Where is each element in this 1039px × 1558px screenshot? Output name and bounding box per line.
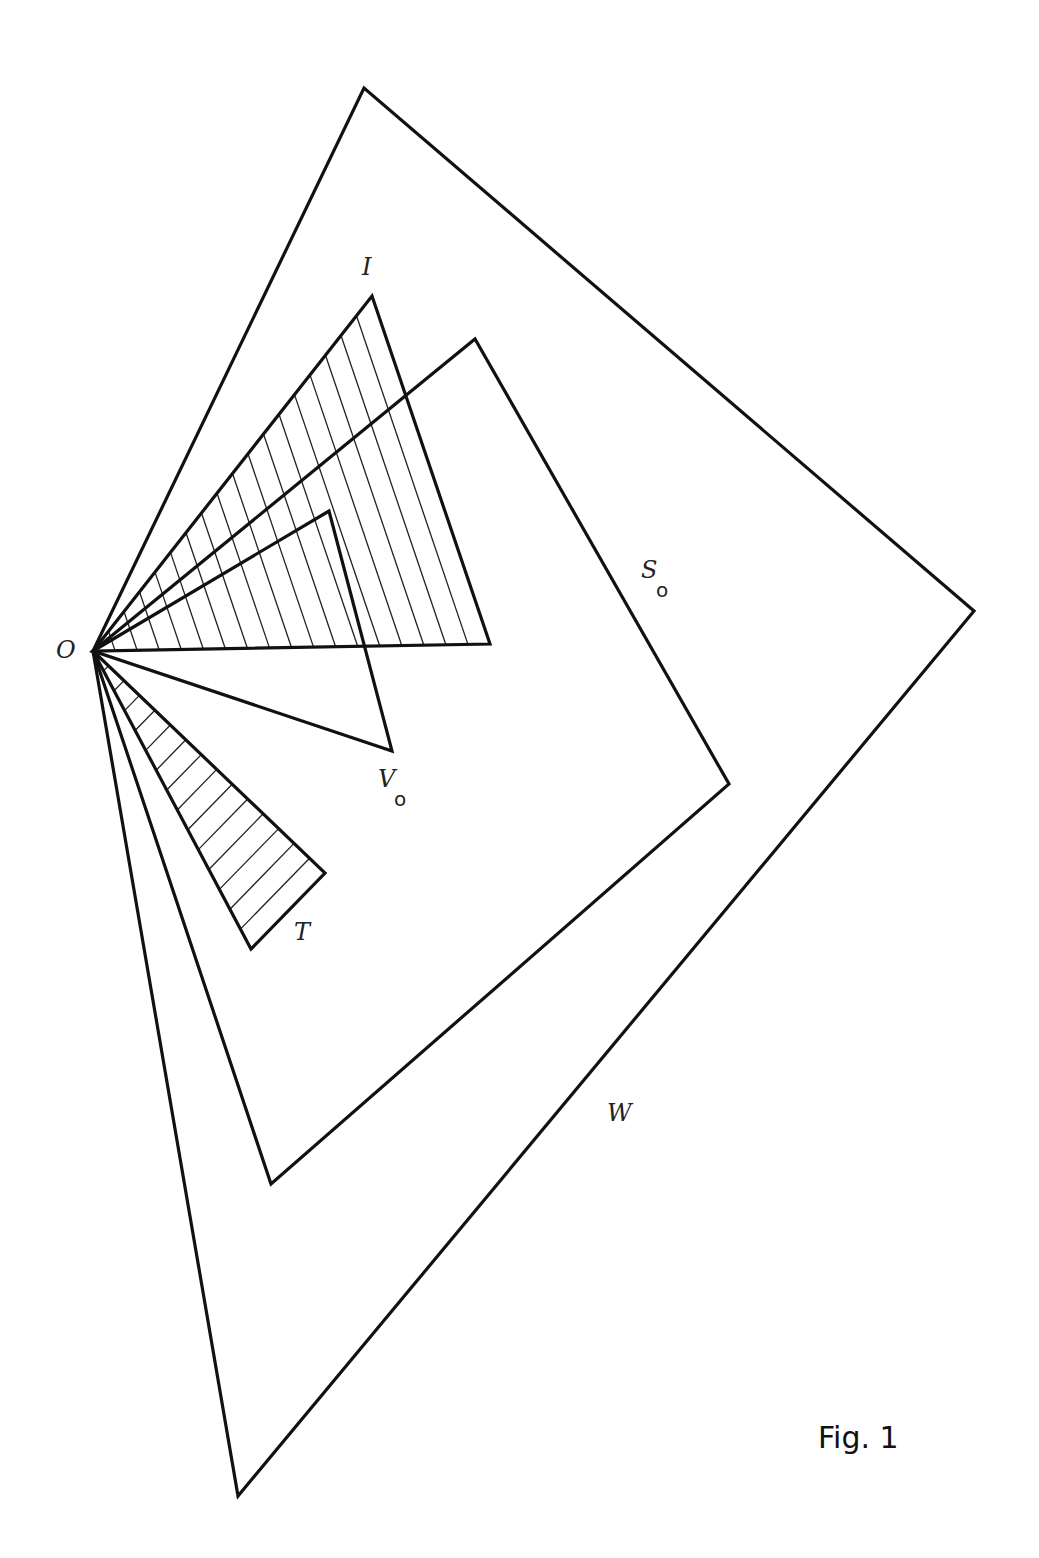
hatch-line-t (188, 784, 232, 830)
region-t (93, 651, 325, 949)
hatch-line-i (326, 355, 424, 645)
hatch-line-i (310, 375, 402, 646)
label-t: T (294, 918, 312, 946)
hatch-line-t (156, 740, 186, 770)
hatch-line-i (233, 474, 292, 648)
hatch-line-t (230, 843, 294, 909)
region-s0 (93, 339, 729, 1184)
label-origin-o: O (56, 636, 76, 664)
figure-caption: Fig. 1 (818, 1420, 899, 1455)
hatch-line-i (295, 395, 380, 646)
label-s0: S (641, 556, 657, 584)
hatch-line-t (198, 799, 247, 850)
hatch-line-i (248, 454, 314, 647)
hatch-line-i (202, 513, 248, 648)
hatch-line-i (357, 316, 468, 645)
region-v0 (93, 511, 392, 751)
hatch-line-i (217, 493, 269, 648)
figure-diagram: O I S o V o T W Fig. 1 (0, 0, 1039, 1558)
hatch-line-t (209, 814, 263, 870)
hatch-line-t (177, 769, 216, 810)
label-w: W (607, 1099, 634, 1127)
hatch-line-t (125, 695, 140, 710)
hatch-line-t (167, 755, 202, 790)
label-i: I (361, 253, 372, 281)
hatch-line-i (264, 434, 336, 647)
hatch-line-i (279, 414, 358, 646)
label-s0-subscript: o (656, 578, 668, 602)
hatch-line-i (341, 335, 446, 644)
hatch-line-t (114, 681, 124, 691)
hatch-line-t (135, 710, 155, 730)
hatch-line-t (146, 725, 171, 750)
hatch-line-t (219, 829, 278, 890)
label-v0-subscript: o (394, 787, 406, 811)
